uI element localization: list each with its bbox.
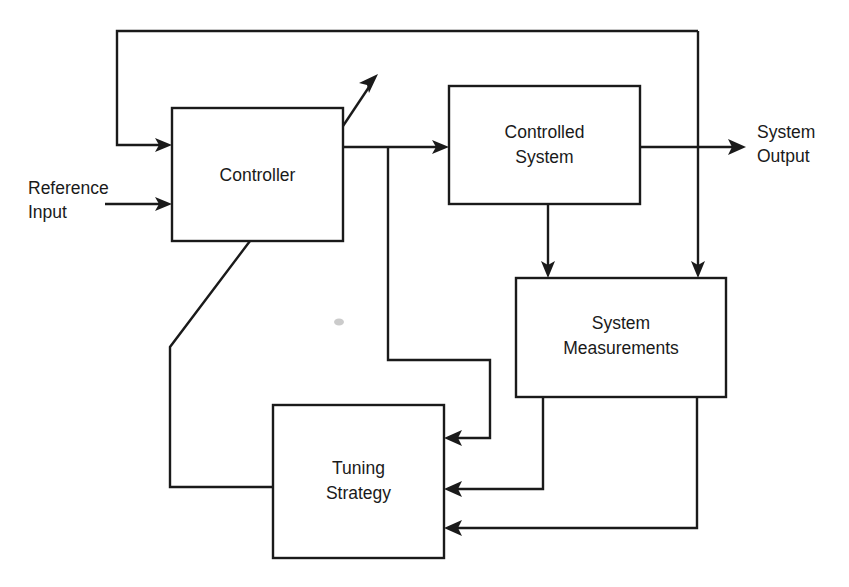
system-output-label: System Output <box>757 122 815 166</box>
tuning-strategy-label-line2: Strategy <box>326 483 391 503</box>
tuning-strategy-box[interactable] <box>273 405 444 558</box>
controlled-system-label-line1: Controlled <box>505 122 585 142</box>
connection-measurements-right-to-tuning <box>444 397 697 536</box>
controller-adaptation-path <box>343 84 371 126</box>
connection-controller-to-controlled-system <box>343 140 449 154</box>
scan-artifact-speck <box>334 319 344 326</box>
tuning-feedback-path <box>170 241 273 487</box>
connection-tuning-to-controller <box>170 241 273 487</box>
connection-controlled-system-to-output <box>640 139 746 155</box>
diagram-canvas: Controller Controlled System System Meas… <box>0 0 849 587</box>
system-measurements-label-line2: Measurements <box>563 338 679 358</box>
tuning-strategy-label-line1: Tuning <box>332 458 385 478</box>
controller-label: Controller <box>220 165 296 185</box>
reference-input-label: Reference Input <box>28 178 109 222</box>
system-output-label-line1: System <box>757 122 815 142</box>
controlled-system-box[interactable] <box>449 86 640 204</box>
system-measurements-label-line1: System <box>592 313 650 333</box>
connection-controller-adaptation-out <box>343 74 378 126</box>
measurements-left-path <box>452 397 543 489</box>
connection-measurements-left-to-tuning <box>444 397 543 497</box>
block-controlled-system[interactable]: Controlled System <box>449 86 640 204</box>
connection-controlled-system-to-measurements <box>541 204 555 278</box>
block-controller[interactable]: Controller <box>172 108 343 241</box>
measurements-right-path <box>452 397 697 528</box>
reference-input-label-line1: Reference <box>28 178 109 198</box>
connection-reference-input-to-controller <box>105 197 172 211</box>
connection-output-to-measurements <box>691 31 705 278</box>
controller-adaptation-arrowhead <box>359 74 378 93</box>
block-tuning-strategy[interactable]: Tuning Strategy <box>273 405 444 558</box>
control-system-diagram: Controller Controlled System System Meas… <box>0 0 849 587</box>
block-system-measurements[interactable]: System Measurements <box>516 278 726 397</box>
system-output-label-line2: Output <box>757 146 810 166</box>
controlled-system-label-line2: System <box>515 147 573 167</box>
reference-input-label-line2: Input <box>28 202 67 222</box>
